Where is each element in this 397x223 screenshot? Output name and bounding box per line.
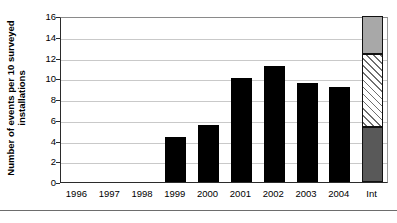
x-tick-label-2000: 2000 (191, 188, 224, 200)
y-tick-label: 2 (16, 157, 56, 167)
bar-int-segment-upper (362, 16, 383, 54)
x-tick-label-2001: 2001 (224, 188, 257, 200)
x-tick-label-1999: 1999 (158, 188, 191, 200)
x-tick-label-1998: 1998 (126, 188, 159, 200)
y-tick-label: 16 (16, 12, 56, 22)
y-tick-label: 6 (16, 116, 56, 126)
y-tick-mark (56, 183, 60, 184)
bar-int-segment-lower (362, 127, 383, 182)
gridline (61, 80, 387, 81)
plot-area (60, 17, 388, 183)
bar-1999 (165, 137, 186, 182)
y-tick-label: 0 (16, 178, 56, 188)
y-tick-label: 4 (16, 137, 56, 147)
bar-chart: Number of events per 10 surveyed install… (0, 0, 397, 223)
x-tick-label-1997: 1997 (93, 188, 126, 200)
x-tick-label-2003: 2003 (290, 188, 323, 200)
y-tick-label: 8 (16, 95, 56, 105)
bottom-divider (0, 210, 397, 211)
bar-2004 (329, 87, 350, 183)
bar-2002 (264, 66, 285, 182)
x-tick-label-2002: 2002 (257, 188, 290, 200)
y-axis-tick-labels: 16 14 12 10 8 6 4 2 0 (14, 0, 56, 223)
x-tick-label-int: Int (355, 188, 388, 200)
bar-2000 (198, 125, 219, 182)
bar-2003 (297, 83, 318, 182)
y-tick-label: 12 (16, 54, 56, 64)
y-tick-label: 14 (16, 33, 56, 43)
y-tick-label: 10 (16, 74, 56, 84)
gridline (61, 60, 387, 61)
gridline (61, 39, 387, 40)
bar-2001 (231, 78, 252, 182)
bar-int-segment-middle (362, 54, 383, 127)
x-tick-label-2004: 2004 (322, 188, 355, 200)
bar-int-stacked (362, 16, 383, 182)
x-axis-tick-labels: 1996 1997 1998 1999 2000 2001 2002 2003 … (60, 188, 388, 208)
x-tick-label-1996: 1996 (60, 188, 93, 200)
